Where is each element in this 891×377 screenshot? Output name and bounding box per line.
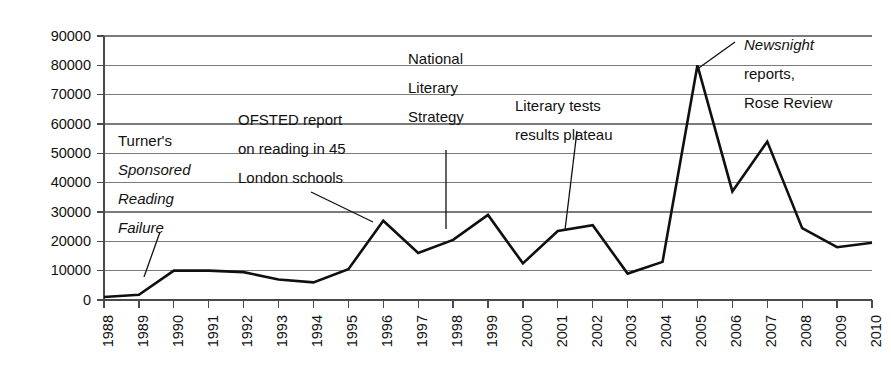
annotation-leader-literary-tests-plateau	[565, 131, 577, 230]
annotation-leader-ofsted	[311, 192, 373, 222]
x-axis-tick-label: 2003	[623, 315, 639, 347]
annotation-line: reports,	[744, 65, 795, 82]
x-axis-tick-label: 1995	[344, 315, 360, 347]
annotation-line: results plateau	[515, 126, 613, 143]
x-axis-tick-label: 2001	[554, 315, 570, 347]
annotation-line: Failure	[118, 219, 164, 236]
annotation-ofsted: OFSTED reporton reading in 45London scho…	[238, 111, 346, 186]
y-axis-ticks-group	[97, 36, 104, 300]
annotation-line: Rose Review	[744, 94, 833, 111]
annotation-line: London schools	[238, 169, 343, 186]
x-axis-tick-label: 2005	[693, 315, 709, 347]
x-axis-ticks-group	[104, 300, 872, 308]
y-axis-tick-label: 60000	[51, 116, 91, 132]
annotation-line: Literary tests	[515, 97, 601, 114]
annotation-line: Reading	[118, 190, 175, 207]
x-axis-tick-label: 2004	[658, 315, 674, 347]
y-axis-tick-label: 90000	[51, 28, 91, 44]
x-axis-tick-label: 1989	[135, 315, 151, 347]
annotation-literary-tests-plateau: Literary testsresults plateau	[515, 97, 613, 143]
line-chart: 0100002000030000400005000060000700008000…	[0, 0, 891, 377]
y-axis-tick-label: 30000	[51, 204, 91, 220]
annotations-group: Turner'sSponsoredReadingFailureOFSTED re…	[118, 36, 833, 236]
chart-figure: 0100002000030000400005000060000700008000…	[0, 0, 891, 377]
x-axis-tick-label: 1999	[484, 315, 500, 347]
y-axis-tick-labels-group: 0100002000030000400005000060000700008000…	[51, 28, 91, 308]
annotation-national-literary-strategy: NationalLiteraryStrategy	[408, 50, 464, 125]
y-axis-tick-label: 40000	[51, 174, 91, 190]
annotation-line: National	[408, 50, 463, 67]
x-axis-tick-label: 1990	[170, 315, 186, 347]
y-axis-tick-label: 0	[83, 292, 91, 308]
annotation-turner: Turner'sSponsoredReadingFailure	[118, 132, 191, 236]
annotation-line: Literary	[408, 79, 459, 96]
annotation-line: on reading in 45	[238, 140, 346, 157]
x-axis-tick-label: 2008	[798, 315, 814, 347]
annotation-newsnight-rose-review: Newsnightreports,Rose Review	[744, 36, 833, 111]
annotation-line: Sponsored	[118, 161, 191, 178]
x-axis-tick-label: 1998	[449, 315, 465, 347]
x-axis-tick-label: 1994	[309, 315, 325, 347]
annotation-line: OFSTED report	[238, 111, 343, 128]
x-axis-tick-label: 2009	[833, 315, 849, 347]
x-axis-tick-label: 2007	[763, 315, 779, 347]
x-axis-tick-label: 1997	[414, 315, 430, 347]
annotation-line: Strategy	[408, 108, 464, 125]
y-axis-tick-label: 10000	[51, 262, 91, 278]
x-axis-tick-label: 2002	[589, 315, 605, 347]
y-axis-tick-label: 80000	[51, 57, 91, 73]
x-axis-tick-label: 1992	[239, 315, 255, 347]
x-axis-tick-label: 2006	[728, 315, 744, 347]
x-axis-tick-label: 2010	[868, 315, 884, 347]
y-axis-tick-label: 70000	[51, 86, 91, 102]
x-axis-tick-label: 2000	[519, 315, 535, 347]
annotation-line: Turner's	[118, 132, 172, 149]
x-axis-tick-label: 1993	[274, 315, 290, 347]
x-axis-tick-label: 1996	[379, 315, 395, 347]
y-axis-tick-label: 50000	[51, 145, 91, 161]
x-axis-tick-label: 1991	[205, 315, 221, 347]
x-axis-tick-labels-group: 1988198919901991199219931994199519961997…	[100, 315, 884, 347]
x-axis-tick-label: 1988	[100, 315, 116, 347]
annotation-line: Newsnight	[744, 36, 815, 53]
y-axis-tick-label: 20000	[51, 233, 91, 249]
